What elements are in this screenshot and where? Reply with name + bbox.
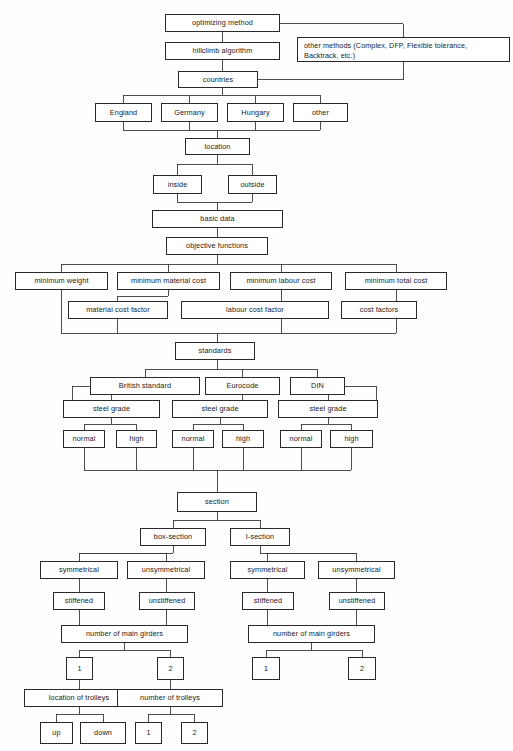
node-steel-grade-british[interactable]: steel grade (63, 400, 160, 418)
node-england[interactable]: England (95, 103, 152, 122)
node-unstiffened-i[interactable]: unstiffened (329, 592, 385, 610)
node-girders-i-option-2[interactable]: 2 (348, 657, 376, 680)
node-inside[interactable]: inside (153, 175, 202, 194)
node-minimum-total-cost[interactable]: minimum total cost (345, 272, 447, 290)
flowchart-diagram: optimizing method other methods (Complex… (0, 0, 513, 751)
node-trolley-up[interactable]: up (40, 722, 73, 744)
node-other-methods[interactable]: other methods (Complex, DFP, Flexible to… (297, 37, 510, 62)
node-symmetrical-box[interactable]: symmetrical (40, 561, 118, 579)
node-objective-functions[interactable]: objective functions (166, 237, 268, 255)
node-other-country[interactable]: other (293, 103, 348, 122)
node-germany[interactable]: Germany (161, 103, 218, 122)
node-girders-i-option-1[interactable]: 1 (252, 657, 280, 680)
node-minimum-labour-cost[interactable]: minimum labour cost (230, 272, 332, 290)
node-symmetrical-i[interactable]: symmetrical (230, 561, 305, 579)
node-outside[interactable]: outside (228, 175, 277, 194)
node-section[interactable]: section (177, 492, 257, 512)
node-girders-box-section[interactable]: number of main girders (61, 625, 188, 643)
node-standards[interactable]: standards (175, 342, 255, 360)
node-stiffened-i[interactable]: stiffened (242, 592, 294, 610)
node-hillclimb-algorithm[interactable]: hillclimb algorithm (165, 42, 280, 60)
node-normal-eurocode[interactable]: normal (172, 430, 214, 448)
node-unsymmetrical-i[interactable]: unsymmetrical (318, 561, 395, 579)
node-eurocode[interactable]: Eurocode (205, 377, 280, 395)
node-high-eurocode[interactable]: high (222, 430, 264, 448)
node-normal-din[interactable]: normal (280, 430, 322, 448)
node-trolleys-option-2[interactable]: 2 (181, 722, 208, 744)
node-steel-grade-din[interactable]: steel grade (278, 400, 378, 418)
node-optimizing-method[interactable]: optimizing method (165, 14, 280, 32)
node-normal-british[interactable]: normal (63, 430, 105, 448)
node-unsymmetrical-box[interactable]: unsymmetrical (127, 561, 205, 579)
node-minimum-material-cost[interactable]: minimum material cost (117, 272, 220, 290)
node-british-standard[interactable]: British standard (90, 377, 200, 395)
node-steel-grade-eurocode[interactable]: steel grade (172, 400, 268, 418)
node-girders-box-option-2[interactable]: 2 (157, 657, 184, 680)
node-din[interactable]: DIN (290, 377, 345, 395)
node-trolley-down[interactable]: down (80, 722, 126, 744)
node-material-cost-factor[interactable]: material cost factor (68, 301, 168, 319)
node-location[interactable]: location (185, 138, 250, 155)
node-stiffened-box[interactable]: stiffened (53, 592, 105, 610)
node-box-section[interactable]: box-section (140, 528, 206, 546)
node-cost-factors[interactable]: cost factors (341, 301, 417, 319)
node-number-of-trolleys[interactable]: number of trolleys (117, 689, 223, 707)
node-i-section[interactable]: I-section (230, 528, 290, 546)
node-basic-data[interactable]: basic data (152, 210, 283, 228)
node-labour-cost-factor[interactable]: labour cost factor (181, 301, 329, 319)
node-minimum-weight[interactable]: minimum weight (15, 272, 108, 290)
node-countries[interactable]: countries (178, 71, 258, 88)
node-unstiffened-box[interactable]: unstiffened (139, 592, 195, 610)
node-trolleys-option-1[interactable]: 1 (135, 722, 162, 744)
node-girders-box-option-1[interactable]: 1 (66, 657, 93, 680)
node-hungary[interactable]: Hungary (227, 103, 284, 122)
node-high-british[interactable]: high (116, 430, 157, 448)
node-high-din[interactable]: high (330, 430, 373, 448)
node-girders-i-section[interactable]: number of main girders (248, 625, 375, 643)
